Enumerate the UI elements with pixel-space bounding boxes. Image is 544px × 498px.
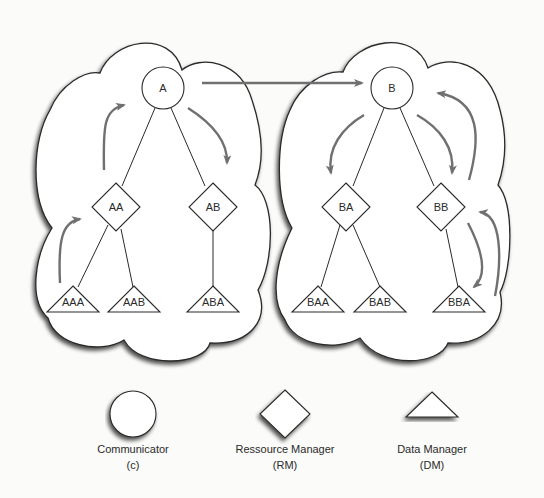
node-a: A	[142, 67, 184, 109]
svg-text:ABA: ABA	[202, 296, 225, 308]
svg-text:(DM): (DM)	[420, 459, 444, 471]
svg-text:Data Manager: Data Manager	[397, 443, 467, 455]
svg-text:AAB: AAB	[123, 296, 145, 308]
svg-text:(RM): (RM)	[273, 459, 297, 471]
svg-text:BB: BB	[434, 201, 449, 213]
svg-text:(c): (c)	[127, 459, 140, 471]
svg-text:BBA: BBA	[448, 296, 471, 308]
svg-text:B: B	[388, 82, 395, 94]
legend-communicator: Communicator (c)	[97, 391, 169, 471]
svg-text:AB: AB	[206, 201, 221, 213]
node-b: B	[371, 67, 413, 109]
svg-text:AAA: AAA	[62, 296, 85, 308]
svg-text:BAA: BAA	[307, 296, 330, 308]
circle-icon	[110, 391, 156, 437]
svg-text:Communicator: Communicator	[97, 443, 169, 455]
legend-resource-manager: Ressource Manager (RM)	[235, 390, 334, 471]
diamond-icon	[260, 390, 310, 438]
hierarchy-diagram: A B AA AB BA BB AAA AAB ABA BAA BAB	[0, 0, 544, 498]
legend: Communicator (c) Ressource Manager (RM) …	[97, 390, 467, 471]
svg-text:BAB: BAB	[369, 296, 391, 308]
svg-text:Ressource Manager: Ressource Manager	[235, 443, 334, 455]
triangle-icon	[406, 392, 458, 417]
legend-data-manager: Data Manager (DM)	[397, 392, 467, 471]
svg-text:A: A	[159, 82, 167, 94]
svg-text:BA: BA	[339, 201, 354, 213]
svg-text:AA: AA	[109, 201, 124, 213]
